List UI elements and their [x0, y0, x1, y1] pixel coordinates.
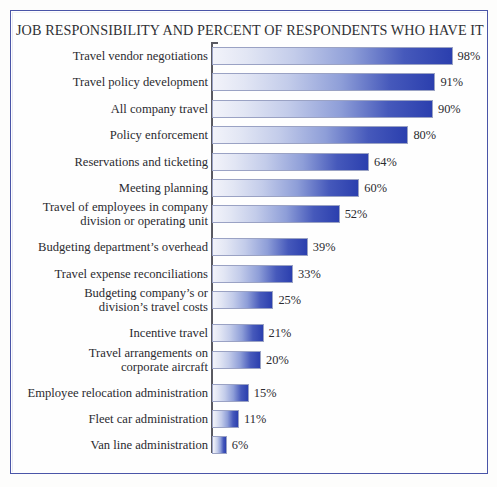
bar-category-label: All company travel: [111, 102, 208, 116]
bar-value-label: 25%: [278, 291, 301, 309]
chart-page: JOB RESPONSIBILITY AND PERCENT OF RESPON…: [0, 0, 497, 487]
chart-row: Policy enforcement80%: [0, 126, 497, 144]
chart-row: Van line administration6%: [0, 436, 497, 454]
bar-value-label: 21%: [269, 324, 292, 342]
bar-value-label: 52%: [345, 205, 368, 223]
bar: [212, 410, 239, 428]
chart-row: Reservations and ticketing64%: [0, 153, 497, 171]
bar: [212, 205, 340, 223]
bar: [212, 73, 435, 91]
chart-row: Travel of employees in company division …: [0, 205, 497, 223]
bar-category-label: Travel expense reconciliations: [55, 267, 208, 281]
bar: [212, 179, 359, 197]
bar: [212, 291, 273, 309]
chart-row: Budgeting department’s overhead39%: [0, 238, 497, 256]
bar: [212, 47, 453, 65]
bar-value-label: 20%: [266, 351, 289, 369]
bar-category-label: Van line administration: [90, 438, 208, 452]
bar-value-label: 64%: [374, 153, 397, 171]
bar-value-label: 60%: [364, 179, 387, 197]
bar: [212, 153, 369, 171]
chart-row: Travel policy development91%: [0, 73, 497, 91]
bar-value-label: 90%: [438, 100, 461, 118]
bar: [212, 265, 293, 283]
bar-category-label: Reservations and ticketing: [74, 155, 208, 169]
chart-row: Travel arrangements on corporate aircraf…: [0, 351, 497, 369]
chart-row: Fleet car administration11%: [0, 410, 497, 428]
bar: [212, 436, 227, 454]
chart-row: Travel vendor negotiations98%: [0, 47, 497, 65]
bar-category-label: Budgeting company’s or division’s travel…: [84, 286, 208, 314]
bar: [212, 238, 308, 256]
axis-cap-top: [211, 42, 218, 44]
chart-row: Meeting planning60%: [0, 179, 497, 197]
bar-category-label: Meeting planning: [119, 181, 208, 195]
chart-row: All company travel90%: [0, 100, 497, 118]
chart-row: Travel expense reconciliations33%: [0, 265, 497, 283]
bar-category-label: Employee relocation administration: [28, 386, 208, 400]
bar-value-label: 39%: [313, 238, 336, 256]
bar-value-label: 33%: [298, 265, 321, 283]
bar-category-label: Travel policy development: [73, 75, 208, 89]
bar: [212, 351, 261, 369]
bar-value-label: 6%: [232, 436, 249, 454]
bar-category-label: Travel of employees in company division …: [43, 200, 208, 228]
chart-row: Employee relocation administration15%: [0, 384, 497, 402]
plot-area: Travel vendor negotiations98%Travel poli…: [0, 0, 497, 487]
bar: [212, 126, 408, 144]
bar-value-label: 91%: [440, 73, 463, 91]
chart-row: Budgeting company’s or division’s travel…: [0, 291, 497, 309]
bar-category-label: Budgeting department’s overhead: [38, 240, 208, 254]
bar-value-label: 80%: [413, 126, 436, 144]
bar: [212, 324, 264, 342]
bar-category-label: Travel arrangements on corporate aircraf…: [89, 346, 208, 374]
bar-category-label: Fleet car administration: [88, 412, 208, 426]
bar-value-label: 11%: [244, 410, 266, 428]
bar-value-label: 98%: [458, 47, 481, 65]
chart-row: Incentive travel21%: [0, 324, 497, 342]
bar-category-label: Policy enforcement: [110, 128, 208, 142]
bar-value-label: 15%: [254, 384, 277, 402]
bar: [212, 100, 433, 118]
bar-category-label: Incentive travel: [129, 326, 208, 340]
bar-category-label: Travel vendor negotiations: [73, 49, 208, 63]
bar: [212, 384, 249, 402]
